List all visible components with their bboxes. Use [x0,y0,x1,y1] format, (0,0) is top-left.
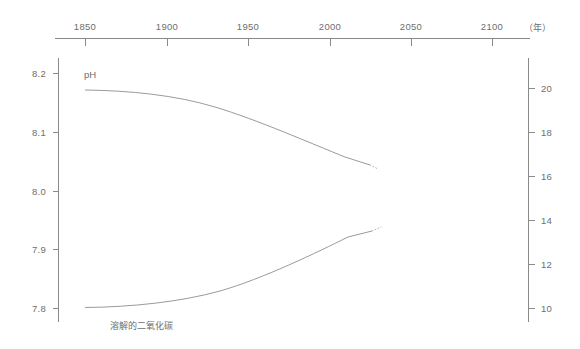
co2-curve-solid [85,231,372,308]
x-tick-label-2050: 2050 [400,21,422,32]
y-right-tick-label-12: 12 [541,259,552,270]
y-right-tick-label-10: 10 [541,303,552,314]
y-right-tick-label-18: 18 [541,127,552,138]
x-tick-label-1900: 1900 [156,21,178,32]
y-right-tick-label-16: 16 [541,171,552,182]
series-label-dissolved-co2: 溶解的二氧化碳 [110,319,173,332]
series-ph [85,90,378,169]
x-tick-label-2100: 2100 [481,21,503,32]
y-axis-left [53,58,59,322]
series-co2 [85,227,381,308]
chart-figure: 1850 1900 1950 2000 2050 2100 （年） 8.2 8.… [0,0,580,349]
x-axis-top [55,39,530,46]
ph-curve-projection [370,165,378,169]
y-left-tick-label-7-9: 7.9 [8,244,46,255]
y-right-tick-label-20: 20 [541,83,552,94]
x-tick-label-2000: 2000 [319,21,341,32]
series-label-ph: pH [84,69,96,80]
y-left-tick-label-7-8: 7.8 [8,303,46,314]
x-tick-label-1950: 1950 [237,21,259,32]
x-tick-label-1850: 1850 [74,21,96,32]
ph-curve-solid [85,90,370,165]
co2-curve-projection [372,227,381,231]
y-right-tick-label-14: 14 [541,215,552,226]
y-left-tick-label-8-2: 8.2 [8,68,46,79]
y-left-tick-label-8-0: 8.0 [8,186,46,197]
y-left-tick-label-8-1: 8.1 [8,127,46,138]
chart-canvas [0,0,580,349]
x-axis-unit-label: （年） [524,21,551,34]
y-axis-right [529,58,535,322]
